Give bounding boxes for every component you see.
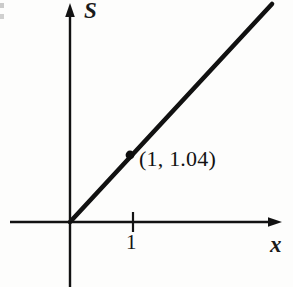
x-axis-label: x: [270, 232, 282, 258]
y-axis-arrowhead: [65, 3, 75, 17]
data-line-series-0: [70, 4, 272, 222]
data-point-label: (1, 1.04): [139, 146, 216, 172]
y-axis-label: S: [84, 0, 97, 24]
plot-canvas: [0, 0, 293, 287]
x-tick-label-1: 1: [126, 230, 137, 255]
data-point-marker: [126, 151, 135, 160]
x-axis-arrowhead: [268, 217, 282, 227]
graph-figure: S x 1 (1, 1.04): [0, 0, 293, 287]
